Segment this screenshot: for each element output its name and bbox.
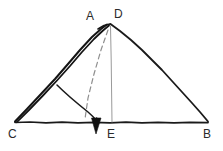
segment-de-altitude [111,26,113,122]
vertex-label-e: E [107,128,115,140]
vertex-label-a: A [86,10,94,22]
segment-db [111,24,209,122]
arrow-head-icon [92,118,102,134]
segment-cb-base [15,122,208,123]
segment-dashed-bisector [85,30,108,119]
segment-ca-inner [17,26,109,123]
vertex-label-d: D [114,8,123,20]
geometry-diagram: A D C E B [0,0,223,151]
vertex-label-b: B [203,128,211,140]
vertex-label-c: C [8,128,17,140]
arc-sweep [57,85,97,121]
